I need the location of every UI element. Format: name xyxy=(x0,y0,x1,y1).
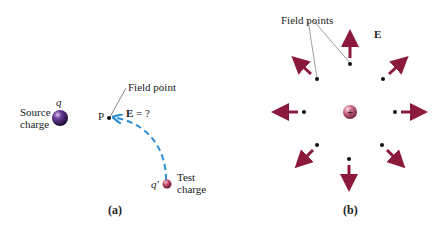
source-charge-label-line2: charge xyxy=(20,118,49,130)
field-point-dot-lower-right xyxy=(380,143,384,147)
field-points-callout-line-2 xyxy=(308,20,317,78)
panel-a-caption: (a) xyxy=(108,204,122,216)
electric-field-figure: + q Source charge Fie xyxy=(0,0,442,226)
source-charge-label-line1: Source xyxy=(20,106,51,118)
center-charge-sign: + xyxy=(347,108,354,117)
field-point-dot-right xyxy=(393,110,397,114)
source-charge-symbol: q xyxy=(56,96,62,108)
panel-b: + xyxy=(280,20,419,183)
field-point-callout: Field point xyxy=(128,81,176,93)
field-query: E = ? xyxy=(126,107,150,119)
field-point-dot xyxy=(107,116,111,120)
test-charge-path xyxy=(117,118,166,180)
field-point-dot-upper-left xyxy=(315,77,319,81)
field-point-dot-top xyxy=(348,62,352,66)
panel-a xyxy=(52,88,172,189)
field-point-dot-bottom xyxy=(347,157,351,161)
test-charge-label-line1: Test xyxy=(177,171,195,183)
test-charge-symbol: q′ xyxy=(151,178,159,190)
field-arrow-lower-left xyxy=(301,150,313,162)
field-point-callout-line xyxy=(110,88,126,117)
field-arrow-upper-left xyxy=(298,62,311,74)
field-symbol-b: E xyxy=(374,28,381,40)
source-charge-sphere xyxy=(52,110,68,126)
field-arrow-lower-right xyxy=(387,150,399,162)
field-point-dot-lower-left xyxy=(315,143,319,147)
field-arrow-upper-right xyxy=(389,62,402,74)
field-point-label: P xyxy=(98,110,104,122)
test-charge-sphere xyxy=(163,180,172,189)
field-point-dot-upper-right xyxy=(381,77,385,81)
field-points-callout: Field points xyxy=(281,14,333,26)
field-point-dot-left xyxy=(302,110,306,114)
field-points-callout-line-1 xyxy=(313,20,350,63)
test-charge-label-line2: charge xyxy=(177,183,206,195)
panel-b-caption: (b) xyxy=(343,204,358,216)
field-query-rest: = ? xyxy=(133,107,150,119)
